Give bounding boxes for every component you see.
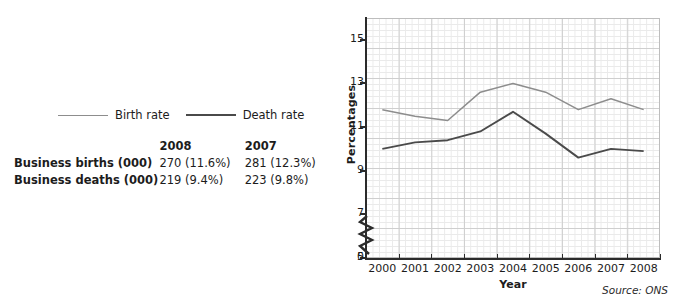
y-tick-mark-13 xyxy=(360,82,366,84)
legend-line-icon-birth-rate xyxy=(58,115,108,116)
y-tick-mark-11 xyxy=(360,126,366,128)
table-row-label-business-deaths: Business deaths (000) xyxy=(14,172,159,189)
x-tick-mark-2006 xyxy=(562,254,563,260)
plot-area xyxy=(366,18,660,258)
series-line-birth-rate xyxy=(382,83,643,120)
axis-break-icon xyxy=(356,214,378,258)
legend-label-birth-rate: Birth rate xyxy=(115,108,170,122)
y-tick-mark-9 xyxy=(360,170,366,172)
x-tick-mark-2004 xyxy=(497,254,498,260)
table-cell-deaths-2008: 219 (9.4%) xyxy=(159,172,244,189)
x-axis-line xyxy=(365,258,661,260)
table-row-label-business-births: Business births (000) xyxy=(14,155,159,172)
summary-table: 2008 2007 Business births (000) 270 (11.… xyxy=(14,138,330,189)
legend-item-death-rate: Death rate xyxy=(186,108,305,122)
series-layer xyxy=(366,18,660,258)
table-cell-births-2008: 270 (11.6%) xyxy=(159,155,244,172)
table-column-header-2007: 2007 xyxy=(245,138,330,155)
x-tick-mark-2007 xyxy=(595,254,596,260)
series-line-death-rate xyxy=(382,112,643,158)
legend-item-birth-rate: Birth rate xyxy=(58,108,170,122)
table-cell-deaths-2007: 223 (9.8%) xyxy=(245,172,330,189)
legend-line-icon-death-rate xyxy=(186,114,236,116)
x-tick-mark-2001 xyxy=(399,254,400,260)
line-chart: Percentages 5791113150 20002001200220032… xyxy=(330,0,676,302)
chart-legend: Birth rate Death rate xyxy=(58,108,304,122)
table-cell-births-2007: 281 (12.3%) xyxy=(245,155,330,172)
x-tick-mark-2005 xyxy=(529,254,530,260)
x-tick-mark-2008 xyxy=(627,254,628,260)
table-header-row: 2008 2007 xyxy=(14,138,330,155)
table-corner-cell xyxy=(14,138,159,155)
table-row: Business deaths (000) 219 (9.4%) 223 (9.… xyxy=(14,172,330,189)
source-note: Source: ONS xyxy=(602,284,668,296)
table-row: Business births (000) 270 (11.6%) 281 (1… xyxy=(14,155,330,172)
table-column-header-2008: 2008 xyxy=(159,138,244,155)
legend-label-death-rate: Death rate xyxy=(243,108,305,122)
x-tick-mark-end xyxy=(660,254,661,260)
x-tick-label-2008: 2008 xyxy=(624,262,664,275)
y-tick-mark-15 xyxy=(360,39,366,41)
x-tick-mark-2003 xyxy=(464,254,465,260)
summary-panel: Birth rate Death rate 2008 2007 Business… xyxy=(0,0,330,302)
x-tick-mark-2002 xyxy=(431,254,432,260)
